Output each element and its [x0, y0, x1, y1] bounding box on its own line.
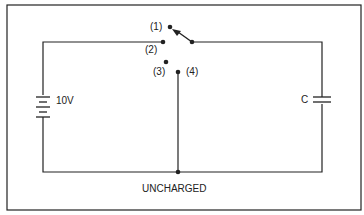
state-label: UNCHARGED — [142, 183, 206, 194]
switch-contact-3 — [164, 60, 169, 65]
wires — [43, 42, 322, 172]
switch-arrow-icon — [172, 29, 181, 36]
capacitor-symbol — [313, 97, 331, 102]
battery-label: 10V — [56, 95, 74, 106]
switch-label-3: (3) — [153, 66, 165, 77]
switch-arm — [178, 32, 192, 42]
capacitor-label: C — [301, 94, 308, 105]
junction-node — [176, 170, 181, 175]
switch-label-2: (2) — [145, 44, 157, 55]
battery-symbol — [36, 97, 50, 117]
circuit-diagram: 10V C (1) (2) (3) (4) UNCHARGED — [0, 0, 364, 215]
switch-contact-2 — [161, 40, 166, 45]
switch-contact-4 — [176, 70, 181, 75]
switch-label-4: (4) — [186, 66, 198, 77]
switch-contact-1 — [168, 25, 173, 30]
switch-label-1: (1) — [150, 21, 162, 32]
